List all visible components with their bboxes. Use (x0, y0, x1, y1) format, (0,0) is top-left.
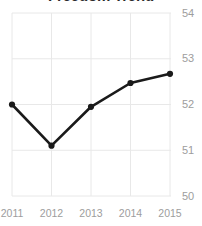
x-axis-tick-label: 2012 (32, 208, 72, 219)
data-point-marker (88, 104, 94, 110)
plot-area (0, 0, 202, 226)
x-axis-tick-label: 2014 (111, 208, 151, 219)
data-point-marker (167, 71, 173, 77)
x-axis-tick-label: 2011 (0, 208, 32, 219)
y-axis-tick-label: 54 (182, 8, 194, 19)
x-axis-tick-label: 2013 (71, 208, 111, 219)
x-axis-tick-label: 2015 (150, 208, 190, 219)
y-axis-tick-label: 50 (182, 191, 194, 202)
data-point-marker (127, 80, 133, 86)
data-point-marker (9, 101, 15, 107)
y-axis-tick-label: 51 (182, 145, 194, 156)
data-point-marker (48, 143, 54, 149)
y-axis-tick-label: 52 (182, 99, 194, 110)
y-axis-tick-label: 53 (182, 53, 194, 64)
line-chart: Freedom Trend 5453525150 201120122013201… (0, 0, 202, 226)
